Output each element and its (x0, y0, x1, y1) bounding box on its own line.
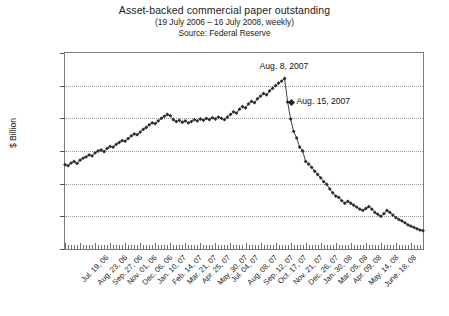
chart-figure: Asset-backed commercial paper outstandin… (0, 0, 449, 316)
plot-area (64, 52, 424, 250)
chart-title-block: Asset-backed commercial paper outstandin… (0, 4, 449, 39)
data-point-marker (99, 148, 103, 152)
annotation-drop-label: Aug. 15, 2007 (297, 96, 351, 106)
chart-title: Asset-backed commercial paper outstandin… (0, 4, 449, 17)
series-line (65, 53, 423, 249)
data-point-marker (295, 136, 299, 140)
y-axis-label: $ Billion (8, 98, 18, 168)
data-point-marker (421, 229, 425, 233)
x-axis-tick (423, 245, 424, 249)
data-point-marker (63, 163, 67, 167)
data-point-marker (292, 130, 296, 134)
annotation-peak-label: Aug. 8, 2007 (260, 61, 309, 71)
chart-subtitle: (19 July 2006 – 16 July 2008, weekly) (0, 17, 449, 28)
data-point-marker (289, 117, 293, 121)
chart-source: Source: Federal Reserve (0, 28, 449, 39)
